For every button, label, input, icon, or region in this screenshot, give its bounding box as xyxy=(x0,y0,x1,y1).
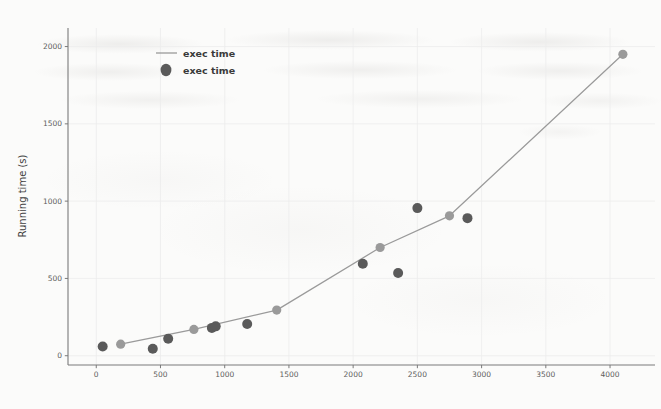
y-axis-title: Running time (s) xyxy=(17,154,28,237)
data-point-line xyxy=(618,50,627,59)
chart-legend[interactable]: exec time exec time xyxy=(156,48,235,77)
data-point-line xyxy=(116,340,125,349)
data-point-line xyxy=(272,306,281,315)
y-tick-label: 0 xyxy=(57,351,62,360)
y-tick-label: 500 xyxy=(48,274,63,283)
data-point-scatter xyxy=(211,321,221,331)
series-line-markers-exec-time xyxy=(116,50,627,349)
legend-label-line: exec time xyxy=(183,48,235,59)
data-point-scatter xyxy=(412,203,422,213)
chart-figure: 0500100015002000 05001000150020002500300… xyxy=(0,0,661,409)
x-tick-label: 500 xyxy=(153,370,168,379)
grid-lines xyxy=(68,28,655,365)
x-tick-label: 3000 xyxy=(472,370,491,379)
legend-circle-swatch-icon xyxy=(161,64,172,76)
x-tick-label: 4000 xyxy=(600,370,619,379)
data-point-scatter xyxy=(242,319,252,329)
y-tick-label: 1500 xyxy=(43,119,62,128)
x-tick-label: 1500 xyxy=(279,370,298,379)
series-line-exec-time xyxy=(121,54,623,344)
data-point-scatter xyxy=(393,268,403,278)
data-point-scatter xyxy=(98,341,108,351)
y-tick-label: 1000 xyxy=(43,197,62,206)
exec-time-line-chart[interactable]: 0500100015002000 05001000150020002500300… xyxy=(0,0,661,409)
data-point-scatter xyxy=(163,334,173,344)
line-path xyxy=(121,54,623,344)
x-axis-ticks: 05001000150020002500300035004000 xyxy=(94,365,620,379)
y-tick-label: 2000 xyxy=(43,42,62,51)
legend-label-scatter: exec time xyxy=(183,65,235,76)
x-tick-label: 0 xyxy=(94,370,99,379)
x-tick-label: 1000 xyxy=(215,370,234,379)
data-point-scatter xyxy=(148,344,158,354)
data-point-scatter xyxy=(358,259,368,269)
data-point-scatter xyxy=(462,213,472,223)
y-axis-ticks: 0500100015002000 xyxy=(43,42,68,360)
x-tick-label: 3500 xyxy=(536,370,555,379)
x-tick-label: 2500 xyxy=(408,370,427,379)
data-point-line xyxy=(376,243,385,252)
data-point-line xyxy=(445,211,454,220)
data-point-line xyxy=(189,325,198,334)
x-tick-label: 2000 xyxy=(344,370,363,379)
